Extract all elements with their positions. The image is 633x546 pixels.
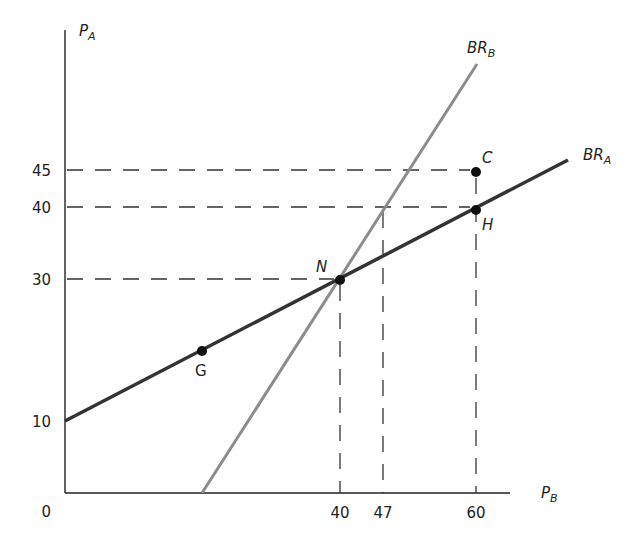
best-response-chart: N G C H BRB BRA PA PB 45 40 30 10 0 40 4… — [0, 0, 633, 546]
x-tick-47: 47 — [373, 504, 392, 522]
y-tick-40: 40 — [32, 199, 51, 217]
origin-label: 0 — [41, 503, 51, 521]
label-n: N — [316, 258, 327, 276]
label-c: C — [482, 149, 493, 167]
label-g: G — [195, 362, 207, 380]
point-c — [471, 167, 481, 177]
label-h: H — [482, 216, 493, 234]
label-br-b: BRB — [467, 39, 495, 60]
y-tick-10: 10 — [32, 413, 51, 431]
dashed-guides — [67, 170, 476, 493]
x-tick-60: 60 — [466, 504, 485, 522]
y-tick-30: 30 — [32, 271, 51, 289]
br-a-line — [65, 160, 568, 421]
point-n — [335, 275, 345, 285]
label-br-a: BRA — [583, 146, 611, 167]
x-axis-label: PB — [541, 484, 558, 505]
x-tick-40: 40 — [330, 504, 349, 522]
y-axis-label: PA — [79, 22, 96, 43]
y-tick-45: 45 — [32, 162, 51, 180]
point-h — [471, 205, 481, 215]
point-g — [197, 346, 207, 356]
